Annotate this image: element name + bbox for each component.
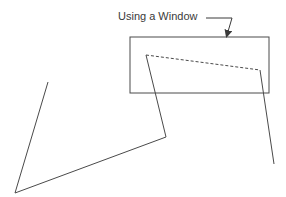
arrow-pointer-icon: [227, 18, 232, 35]
clipped-dashed-segment: [146, 55, 260, 70]
polyline-segment-3: [146, 55, 166, 137]
window-rectangle: [130, 37, 269, 93]
polyline-segment-5: [260, 70, 274, 164]
polyline-segment-1: [15, 82, 48, 193]
diagram-canvas: [0, 0, 286, 197]
polyline-segment-2: [15, 137, 166, 193]
